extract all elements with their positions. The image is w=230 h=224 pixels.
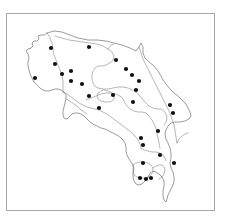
figure-root: Costa Rica xyxy=(0,0,230,224)
map-frame-border xyxy=(6,13,215,211)
figure-title xyxy=(0,0,1,1)
map-region-label: Costa Rica xyxy=(0,0,1,1)
figure-caption xyxy=(0,0,1,1)
